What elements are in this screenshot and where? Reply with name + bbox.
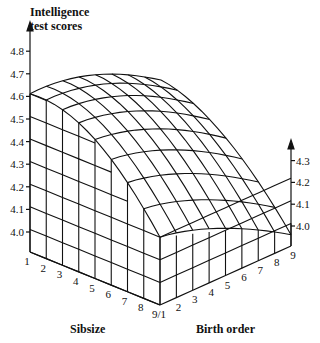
svg-text:4.0: 4.0 — [296, 220, 310, 232]
svg-text:4.7: 4.7 — [10, 68, 24, 80]
svg-text:5: 5 — [89, 282, 95, 294]
svg-text:4: 4 — [73, 275, 79, 287]
svg-text:4.2: 4.2 — [296, 176, 310, 188]
svg-text:7: 7 — [122, 295, 128, 307]
svg-text:4.0: 4.0 — [10, 226, 24, 238]
sibsize-label: Sibsize — [70, 322, 105, 337]
svg-text:4.3: 4.3 — [296, 155, 310, 167]
surface-grid — [30, 74, 291, 305]
z-axis-title: Intelligence test scores — [30, 5, 89, 33]
svg-text:9/1: 9/1 — [152, 308, 166, 320]
svg-text:1: 1 — [24, 255, 30, 267]
birth-order-label: Birth order — [196, 322, 255, 337]
svg-text:5: 5 — [225, 279, 231, 291]
svg-text:8: 8 — [274, 256, 280, 268]
svg-text:4: 4 — [208, 286, 214, 298]
svg-text:6: 6 — [106, 288, 112, 300]
svg-text:7: 7 — [258, 264, 264, 276]
svg-text:8: 8 — [138, 301, 144, 313]
svg-text:4.1: 4.1 — [10, 203, 24, 215]
svg-text:4.2: 4.2 — [10, 181, 24, 193]
svg-text:2: 2 — [41, 262, 47, 274]
svg-text:6: 6 — [241, 271, 247, 283]
svg-text:4.4: 4.4 — [10, 136, 24, 148]
z-axis-title-line2: test scores — [30, 19, 89, 33]
z-axis-title-line1: Intelligence — [30, 5, 89, 19]
svg-text:4.8: 4.8 — [10, 45, 24, 57]
svg-text:9: 9 — [290, 249, 296, 261]
svg-text:4.1: 4.1 — [296, 198, 310, 210]
svg-text:2: 2 — [176, 301, 182, 313]
svg-text:4.5: 4.5 — [10, 113, 24, 125]
svg-text:3: 3 — [192, 293, 198, 305]
surface-chart: 4.04.14.24.34.44.54.64.74.84.04.14.24.31… — [0, 0, 320, 343]
svg-text:4.3: 4.3 — [10, 158, 24, 170]
svg-text:4.6: 4.6 — [10, 90, 24, 102]
svg-text:3: 3 — [57, 268, 63, 280]
